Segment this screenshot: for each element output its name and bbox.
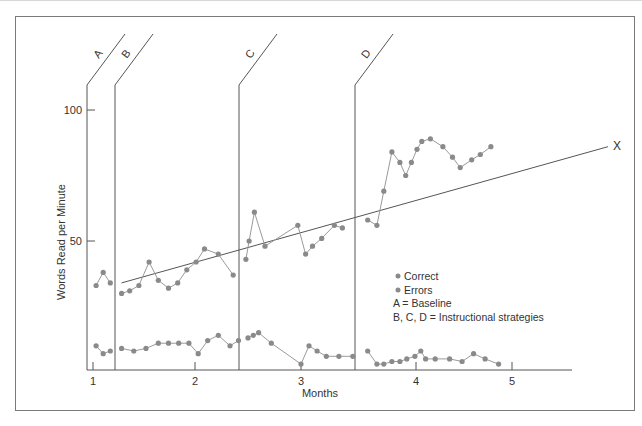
data-point (245, 335, 250, 340)
chart: ABCD 1234550100 Words Read per Minute Mo… (0, 0, 642, 426)
data-point (251, 333, 256, 338)
data-point (315, 348, 320, 353)
data-point (374, 362, 379, 367)
x-axis-label: Months (302, 387, 339, 399)
data-point (478, 152, 483, 157)
data-point (262, 244, 267, 249)
data-point (310, 244, 315, 249)
data-point (397, 359, 402, 364)
data-point (381, 362, 386, 367)
series-line (246, 212, 343, 259)
series-errors (94, 330, 502, 367)
data-point (252, 210, 257, 215)
data-point (119, 346, 124, 351)
data-point (256, 330, 261, 335)
data-point (447, 356, 452, 361)
axes: 1234550100 (64, 104, 572, 387)
data-point (389, 149, 394, 154)
phase-line-d (355, 34, 393, 370)
data-point (496, 362, 501, 367)
data-point (423, 356, 428, 361)
data-point (381, 189, 386, 194)
phase-label-c: C (243, 47, 257, 61)
data-point (247, 238, 252, 243)
series-line (248, 333, 353, 364)
data-point (176, 341, 181, 346)
data-point (374, 223, 379, 228)
data-point (471, 351, 476, 356)
data-point (166, 341, 171, 346)
legend-correct-marker (396, 274, 401, 279)
data-point (156, 341, 161, 346)
data-point (340, 225, 345, 230)
phase-label-d: D (359, 47, 373, 61)
phase-line-b (115, 34, 153, 370)
phase-lines: ABCD (87, 34, 393, 370)
data-point (186, 341, 191, 346)
data-point (450, 155, 455, 160)
data-point (428, 136, 433, 141)
data-series (94, 136, 502, 367)
data-point (143, 346, 148, 351)
data-point (350, 354, 355, 359)
y-tick-label: 50 (70, 235, 82, 247)
data-point (194, 259, 199, 264)
data-point (119, 291, 124, 296)
data-point (231, 273, 236, 278)
y-tick-label: 100 (64, 104, 82, 116)
data-point (196, 351, 201, 356)
data-point (236, 338, 241, 343)
data-point (147, 259, 152, 264)
data-point (94, 283, 99, 288)
data-point (324, 354, 329, 359)
data-point (269, 341, 274, 346)
legend-errors-marker (396, 288, 401, 293)
data-point (108, 348, 113, 353)
data-point (418, 348, 423, 353)
data-point (136, 283, 141, 288)
data-point (389, 359, 394, 364)
data-point (319, 236, 324, 241)
data-point (414, 147, 419, 152)
data-point (412, 354, 417, 359)
data-point (303, 252, 308, 257)
data-point (440, 144, 445, 149)
x-tick-label: 4 (413, 375, 419, 387)
data-point (243, 257, 248, 262)
data-point (108, 280, 113, 285)
data-point (483, 356, 488, 361)
data-point (419, 139, 424, 144)
data-point (469, 157, 474, 162)
data-point (101, 351, 106, 356)
y-axis-label: Words Read per Minute (55, 184, 67, 300)
x-tick-label: 2 (192, 375, 198, 387)
data-point (306, 343, 311, 348)
data-point (156, 278, 161, 283)
series-line (368, 139, 491, 226)
data-point (216, 333, 221, 338)
phase-line-a (87, 34, 125, 370)
data-point (460, 359, 465, 364)
phase-line-c (239, 34, 277, 370)
data-point (216, 252, 221, 257)
data-point (127, 288, 132, 293)
data-point (336, 354, 341, 359)
data-point (166, 286, 171, 291)
data-point (175, 280, 180, 285)
data-point (488, 144, 493, 149)
data-point (298, 362, 303, 367)
x-tick-label: 5 (509, 375, 515, 387)
trend-end-label: X (613, 139, 621, 153)
legend-note-baseline: A = Baseline (393, 297, 452, 309)
data-point (101, 270, 106, 275)
phase-label-b: B (119, 47, 133, 60)
data-point (365, 217, 370, 222)
data-point (397, 160, 402, 165)
x-tick-label: 3 (298, 375, 304, 387)
legend-correct-label: Correct (404, 270, 439, 282)
data-point (403, 173, 408, 178)
legend: Correct Errors A = Baseline B, C, D = In… (393, 270, 544, 323)
legend-note-strategies: B, C, D = Instructional strategies (393, 311, 544, 323)
data-point (433, 356, 438, 361)
data-point (295, 223, 300, 228)
